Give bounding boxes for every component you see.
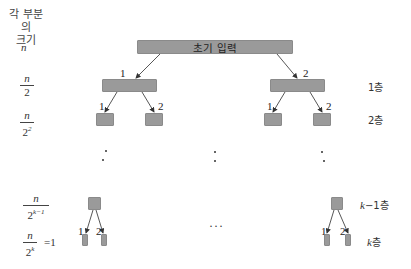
continuation-dot — [214, 151, 216, 153]
root-input-box: 초기 입력 — [137, 40, 293, 54]
root-input-label: 초기 입력 — [138, 41, 292, 53]
branch-number-2: 2 — [326, 101, 332, 112]
continuation-dot — [323, 160, 325, 162]
level-text: 2층 — [368, 115, 383, 126]
level2-box — [264, 113, 282, 126]
continuation-dot — [105, 150, 107, 152]
branch-number-1: 1 — [120, 68, 126, 79]
level-label-1: 1층 — [368, 79, 383, 94]
level1-right-box — [270, 79, 325, 92]
horizontal-ellipsis: ··· — [209, 219, 224, 234]
branch-number-1: 1 — [267, 101, 273, 112]
continuation-dot — [102, 159, 104, 161]
level2-box — [96, 113, 114, 126]
branch-number-2: 2 — [158, 101, 164, 112]
level-k-minus-1-box — [331, 197, 343, 210]
continuation-dot — [214, 160, 216, 162]
level-k-box — [101, 234, 107, 246]
level-text: −1층 — [365, 200, 389, 211]
level-text: 층 — [372, 237, 381, 248]
level-text: 1층 — [368, 82, 383, 93]
level-label-k: k층 — [367, 234, 381, 249]
level2-box — [145, 113, 163, 126]
branch-number-1: 1 — [99, 101, 105, 112]
level1-left-box — [102, 79, 157, 92]
level-k-box — [324, 234, 330, 246]
level-label-k-minus-1: k−1층 — [360, 197, 389, 212]
level-k-box — [82, 234, 88, 246]
continuation-dot — [321, 151, 323, 153]
level-label-2: 2층 — [368, 112, 383, 127]
level-k-minus-1-box — [88, 197, 101, 210]
branch-number-2: 2 — [303, 68, 309, 79]
level-k-box — [345, 234, 351, 246]
level2-box — [313, 113, 331, 126]
